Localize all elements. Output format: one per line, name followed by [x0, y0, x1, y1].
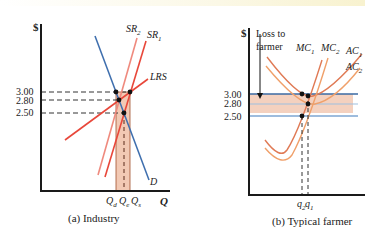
mc1-label: MC1	[295, 42, 315, 56]
y-axis-label: $	[33, 21, 39, 33]
sr2-label: SR2	[126, 23, 141, 37]
point-3-00-right	[306, 94, 311, 99]
tick-2-80: 2.80	[224, 98, 242, 109]
q1-label: q1	[305, 198, 314, 212]
tick-2-50: 2.50	[16, 107, 34, 118]
economics-diagram: $ 3.00 2.80 2.50 SR2 SR1 LRS D Qd Qe Qs …	[0, 0, 365, 242]
mc2-label: MC2	[320, 42, 340, 56]
x-axis-label: Q	[160, 195, 168, 207]
ac2-label: AC2	[345, 61, 363, 75]
ac1-label: AC1	[345, 45, 362, 59]
qe-label: Qe	[119, 195, 129, 209]
point-2-80	[117, 98, 122, 103]
loss-annotation-line2: farmer	[256, 41, 283, 52]
point-2-50	[300, 114, 305, 119]
qd-label: Qd	[106, 195, 117, 209]
y-axis-label: $	[241, 27, 247, 39]
qs-label: Qs	[131, 195, 141, 209]
point-2-50	[122, 111, 127, 116]
loss-annotation-line1: Loss to	[256, 28, 285, 39]
point-qd-3-00	[114, 90, 119, 95]
demand-label: D	[149, 176, 158, 187]
panel-industry	[40, 24, 170, 191]
lrs-label: LRS	[149, 71, 167, 82]
caption-industry: (a) Industry	[68, 212, 120, 225]
caption-farmer: (b) Typical farmer	[272, 215, 353, 228]
tick-2-80: 2.80	[16, 95, 34, 106]
point-qs-3-00	[128, 90, 133, 95]
point-3-00-left	[300, 92, 305, 97]
point-2-80	[306, 102, 311, 107]
lrs-curve	[65, 79, 148, 140]
tick-2-50: 2.50	[224, 111, 242, 122]
sr1-label: SR1	[147, 29, 162, 43]
